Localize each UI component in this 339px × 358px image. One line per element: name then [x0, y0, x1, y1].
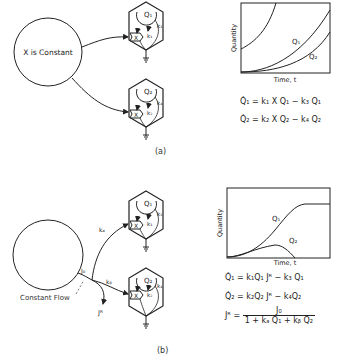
chart-b-frame	[227, 188, 330, 258]
jr-denominator: 1 + kₐ Q₁ + kᵦ Q₂	[243, 316, 315, 325]
svg-text:X: X	[134, 34, 138, 41]
svg-text:Q₂: Q₂	[289, 237, 298, 245]
compartment-a-q1: Q₁ X k₁ k₃	[129, 2, 163, 62]
constant-flow-label: Constant Flow	[20, 294, 70, 302]
flow-line-a2	[72, 78, 128, 112]
svg-text:Quantity: Quantity	[230, 24, 238, 52]
svg-text:Q₂: Q₂	[309, 53, 318, 61]
equation-a-q2: Q̇₂ = k₂ X Q₂ − k₄ Q₂	[240, 115, 321, 124]
chart-a: Q₁ Q₂ Quantity Time, t	[230, 3, 330, 84]
svg-text:Q₂: Q₂	[144, 277, 153, 285]
chart-a-curve-unlabeled	[241, 3, 276, 49]
chart-a-curve-q2	[241, 32, 330, 72]
svg-text:k₁: k₁	[147, 221, 152, 227]
svg-text:J₀: J₀	[80, 267, 86, 275]
svg-text:Q₁: Q₁	[144, 200, 153, 208]
svg-text:kᵦ: kᵦ	[106, 278, 112, 285]
chart-b-curve-q1	[227, 204, 330, 257]
svg-text:k₂: k₂	[147, 292, 152, 298]
svg-text:Q₁: Q₁	[292, 38, 301, 46]
jr-lhs: Jᴿ =	[225, 311, 240, 320]
compartment-a-q2: Q₂ X k₂ k₄	[129, 79, 163, 139]
svg-text:Time, t: Time, t	[273, 76, 297, 84]
caption-a: (a)	[155, 147, 166, 156]
compartment-b-q1: Q₁ X k₁ k₃	[129, 191, 163, 251]
equation-b-jr: Jᴿ = J₀ 1 + kₐ Q₁ + kᵦ Q₂	[225, 306, 315, 325]
svg-text:X: X	[134, 292, 138, 299]
compartment-diagram: X is Constant Q₁ X k₁ k₃ Q₂ X	[0, 0, 339, 358]
source-pool-b	[13, 220, 83, 290]
equation-b-q2: Q̇₂ = k₂Q₂ Jᴿ − k₄Q₂	[225, 292, 301, 301]
svg-text:Q₁: Q₁	[272, 215, 281, 223]
constant-flow-pointer	[76, 280, 84, 294]
svg-text:k₁: k₁	[147, 33, 152, 39]
ka-flow	[92, 224, 128, 280]
caption-b: (b)	[157, 346, 168, 355]
svg-text:k₄: k₄	[157, 283, 163, 289]
equation-a-q1: Q̇₁ = k₁ X Q₁ − k₃ Q₁	[240, 97, 321, 106]
svg-text:X: X	[134, 222, 138, 229]
jr-numerator: J₀	[243, 306, 315, 316]
svg-text:Q₂: Q₂	[144, 88, 153, 96]
flow-line-a1	[82, 37, 128, 47]
svg-text:kₐ: kₐ	[99, 226, 105, 233]
j0-flow	[78, 273, 92, 280]
compartment-b-q2: Q₂ X k₂ k₄	[129, 268, 163, 328]
chart-a-curve-q1	[241, 10, 330, 72]
chart-a-frame	[241, 3, 330, 73]
svg-text:Time, t: Time, t	[273, 259, 297, 267]
svg-text:Quantity: Quantity	[216, 209, 224, 237]
svg-text:Jᴿ: Jᴿ	[97, 309, 103, 317]
jr-fraction: J₀ 1 + kₐ Q₁ + kᵦ Q₂	[243, 306, 315, 325]
svg-text:k₂: k₂	[147, 110, 152, 116]
source-label-a: X is Constant	[23, 48, 73, 57]
q1-label: Q₁	[144, 11, 153, 19]
chart-b: Q₁ Q₂ Quantity Time, t	[216, 188, 330, 267]
svg-text:X: X	[134, 111, 138, 118]
equation-b-q1: Q̇₁ = k₁Q₁ Jᴿ − k₃ Q₁	[225, 273, 304, 282]
